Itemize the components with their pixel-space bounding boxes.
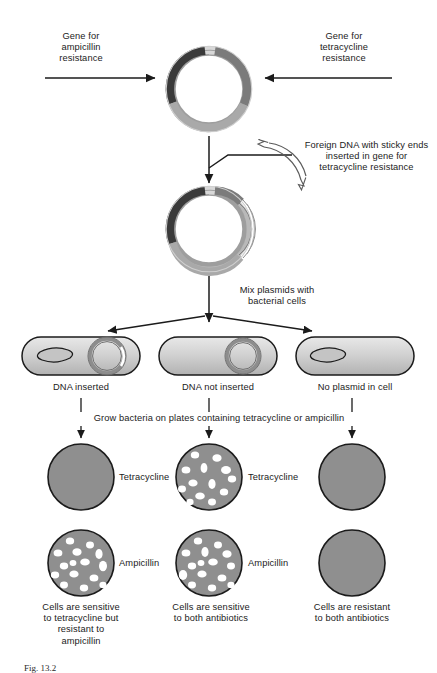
cell-label-dna-not-inserted: DNA not inserted [159, 382, 277, 393]
conclusion-col2: Cells are sensitive to both antibiotics [148, 602, 274, 624]
plate-label-ampicillin-left: Ampicillin [119, 558, 189, 569]
cell-dna-not-inserted [159, 337, 277, 375]
foreign-dna-leader-line [209, 155, 292, 168]
arrow-branch-right [213, 316, 312, 331]
plate-label-tetracycline-left: Tetracycline [119, 472, 189, 483]
cell-label-dna-inserted: DNA inserted [22, 382, 140, 393]
grow-bacteria-label: Grow bacteria on plates containing tetra… [24, 413, 414, 424]
plate-label-ampicillin-right: Ampicillin [248, 558, 318, 569]
diagram-graphics [0, 0, 437, 673]
conclusion-col1: Cells are sensitive to tetracycline but … [18, 602, 144, 647]
plasmid-original [166, 46, 252, 132]
mix-plasmids-label: Mix plasmids with bacterial cells [218, 285, 336, 307]
plasmid-recombinant [166, 186, 255, 272]
cell-no-plasmid [296, 337, 414, 375]
cell-dna-inserted [22, 337, 140, 375]
figure-caption: Fig. 13.2 [24, 663, 56, 673]
plate-label-tetracycline-right: Tetracycline [248, 472, 318, 483]
gene-for-tetracycline-label: Gene for tetracycline resistance [282, 31, 406, 65]
cell-label-no-plasmid: No plasmid in cell [291, 382, 419, 393]
conclusion-col3: Cells are resistant to both antibiotics [289, 602, 415, 624]
plate-amp-col1 [48, 530, 114, 596]
plate-tet-col3 [319, 444, 385, 510]
arrow-branch-left [108, 316, 205, 331]
plate-amp-col3 [319, 530, 385, 596]
foreign-dna-label: Foreign DNA with sticky ends inserted in… [296, 140, 437, 174]
plate-tet-col1 [48, 444, 114, 510]
gene-for-ampicillin-label: Gene for ampicillin resistance [22, 31, 140, 65]
plasmid-cloning-diagram: Gene for ampicillin resistance Gene for … [0, 0, 437, 673]
